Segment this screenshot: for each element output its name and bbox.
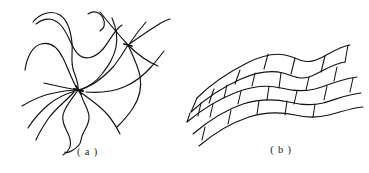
lamella-tie-line xyxy=(345,45,348,62)
polymer-chain xyxy=(130,22,146,43)
lamella-tie-line xyxy=(313,104,315,117)
panel-a-caption: ( a ) xyxy=(0,146,180,157)
lamella-tie-line xyxy=(235,70,240,84)
lamella-tie-line xyxy=(202,127,205,140)
panel-b-lamellar-structure: ( b ) xyxy=(185,0,369,173)
polymer-chain xyxy=(128,19,170,45)
crosslink-junction xyxy=(124,44,132,46)
polymer-chain xyxy=(25,43,78,90)
polymer-chain xyxy=(86,51,164,92)
figure-root: ( a ) xyxy=(0,0,369,173)
lamella-tie-line xyxy=(257,101,259,114)
panel-b-caption: ( b ) xyxy=(189,144,369,155)
lamella-tie-line xyxy=(279,73,281,88)
lamella-tie-line xyxy=(228,110,231,124)
lamella-tie-line xyxy=(285,101,287,115)
lamella-tie-line xyxy=(350,78,353,92)
lamella-tie-line xyxy=(209,89,214,103)
lamella-tie-line xyxy=(291,58,295,74)
lamella-tie-line xyxy=(334,67,337,81)
polymer-chain xyxy=(100,12,158,66)
lamella-tie-line xyxy=(210,104,213,117)
panel-a-crosslinked-network: ( a ) xyxy=(0,0,185,173)
polymer-chain xyxy=(36,19,122,58)
lamella-tie-line xyxy=(294,91,297,104)
lamella-tie-line xyxy=(306,77,309,90)
polymer-chain xyxy=(65,91,89,153)
lamella-tie-line xyxy=(238,91,241,104)
lamella-tie-line xyxy=(324,86,327,100)
lamella-tie-line xyxy=(267,86,269,100)
